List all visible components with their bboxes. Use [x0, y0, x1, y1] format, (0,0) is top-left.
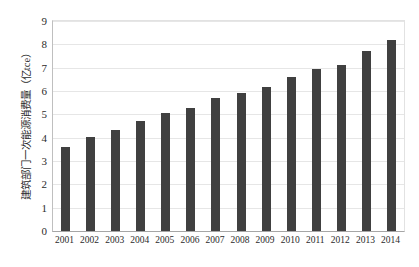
- bar: [211, 98, 220, 231]
- x-axis-tick-label: 2010: [281, 235, 300, 245]
- bar: [86, 137, 95, 231]
- x-axis-tick-label: 2001: [55, 235, 74, 245]
- y-axis-tick-label: 8: [42, 39, 48, 50]
- x-axis-tick-label: 2004: [130, 235, 149, 245]
- bar: [312, 69, 321, 231]
- y-axis-tick-label: 7: [42, 62, 48, 73]
- x-axis-tick-label: 2003: [105, 235, 124, 245]
- bar: [237, 93, 246, 231]
- x-axis-tick-label: 2007: [205, 235, 224, 245]
- y-axis-tick-label: 5: [42, 109, 48, 120]
- y-axis-tick-label: 6: [42, 86, 48, 97]
- y-axis-tick-label: 0: [42, 226, 48, 237]
- x-axis-tick-label: 2002: [80, 235, 99, 245]
- y-axis-tick-label: 4: [42, 132, 48, 143]
- bar: [136, 121, 145, 231]
- y-axis-tick-label: 2: [42, 179, 48, 190]
- bar: [186, 108, 195, 231]
- bar: [61, 147, 70, 231]
- y-axis-tick-label: 3: [42, 156, 48, 167]
- y-axis-title: 建筑部门一次能源消费量（亿tce）: [14, 8, 36, 240]
- x-axis-tick-label: 2008: [231, 235, 250, 245]
- bar: [262, 87, 271, 231]
- bar: [111, 130, 120, 231]
- bar-chart: 建筑部门一次能源消费量（亿tce） 0123456789 20012002200…: [0, 0, 419, 267]
- bar: [337, 65, 346, 231]
- bar: [362, 51, 371, 231]
- plot-area: 0123456789: [52, 20, 405, 232]
- y-axis-tick-label: 9: [42, 16, 48, 27]
- gridline: [53, 231, 404, 232]
- bar: [287, 77, 296, 231]
- x-axis-tick-label: 2009: [256, 235, 275, 245]
- x-axis-tick-label: 2011: [306, 235, 325, 245]
- bars-layer: [53, 21, 404, 231]
- x-axis-tick-label: 2005: [155, 235, 174, 245]
- x-axis-tick-label: 2012: [331, 235, 350, 245]
- x-axis-tick-label: 2013: [356, 235, 375, 245]
- bar: [161, 113, 170, 231]
- bar: [387, 40, 396, 231]
- x-axis-tick-label: 2014: [381, 235, 400, 245]
- y-axis-tick-label: 1: [42, 202, 48, 213]
- x-axis-tick-label: 2006: [180, 235, 199, 245]
